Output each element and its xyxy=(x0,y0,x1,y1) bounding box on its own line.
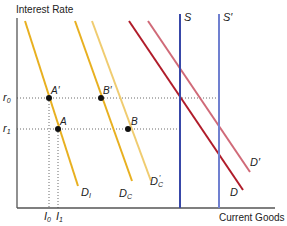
r1-label: r1 xyxy=(3,122,11,135)
x-axis-label: Current Goods xyxy=(219,212,285,223)
label-DC-prime: DC′ xyxy=(150,174,164,188)
y-axis-label: Interest Rate xyxy=(16,4,74,15)
curve-DI xyxy=(25,21,78,186)
label-S: S xyxy=(184,11,192,23)
label-D: D xyxy=(230,186,238,198)
label-A-prime: A′ xyxy=(50,85,61,96)
r0-label: r0 xyxy=(3,91,11,104)
label-DI: DI xyxy=(81,186,91,199)
label-S-prime: S′ xyxy=(223,11,233,23)
curve-D xyxy=(129,21,243,190)
curve-DC xyxy=(75,21,132,181)
label-A: A xyxy=(59,116,67,127)
curve-D-prime xyxy=(148,21,250,172)
economics-diagram: Interest Rate Current Goods r0 r1 I0 I1 … xyxy=(0,0,287,226)
label-B-prime: B′ xyxy=(103,85,113,96)
I0-label: I0 xyxy=(44,210,51,223)
curve-DC-prime xyxy=(92,21,151,181)
I1-label: I1 xyxy=(56,210,63,223)
label-DC: DC xyxy=(119,187,133,200)
label-B: B xyxy=(131,116,138,127)
label-D-prime: D′ xyxy=(250,156,261,168)
